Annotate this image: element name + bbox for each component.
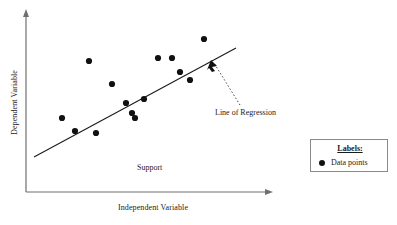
plot-canvas	[0, 0, 397, 225]
support-annotation: Support	[137, 163, 162, 172]
data-point	[201, 36, 207, 42]
x-axis	[26, 189, 273, 195]
legend: Labels: Data points	[310, 139, 388, 172]
data-point	[86, 58, 92, 64]
legend-entry-data-points: Data points	[319, 158, 368, 167]
data-point	[59, 115, 65, 121]
data-point	[93, 130, 99, 136]
scatter-points	[59, 36, 207, 136]
regression-line	[34, 48, 236, 157]
x-axis-arrowhead	[265, 189, 273, 195]
data-point	[132, 115, 138, 121]
data-point	[177, 69, 183, 75]
data-point	[169, 55, 175, 61]
y-axis	[23, 9, 29, 192]
regression-leader-arrowhead	[207, 60, 217, 72]
data-point	[72, 128, 78, 134]
regression-annotation: Line of Regression	[215, 108, 276, 117]
x-axis-title: Independent Variable	[118, 203, 188, 212]
y-axis-arrowhead	[23, 9, 29, 17]
data-point	[141, 96, 147, 102]
scatter-plot-figure: Dependent Variable Independent Variable …	[0, 0, 397, 225]
data-point	[123, 100, 129, 106]
legend-title: Labels:	[311, 144, 389, 153]
legend-entry-label: Data points	[331, 158, 368, 167]
data-point	[109, 81, 115, 87]
data-point	[155, 55, 161, 61]
y-axis-title: Dependent Variable	[10, 53, 19, 153]
regression-leader-line	[214, 63, 240, 105]
filled-circle-icon	[319, 160, 325, 166]
data-point	[187, 77, 193, 83]
